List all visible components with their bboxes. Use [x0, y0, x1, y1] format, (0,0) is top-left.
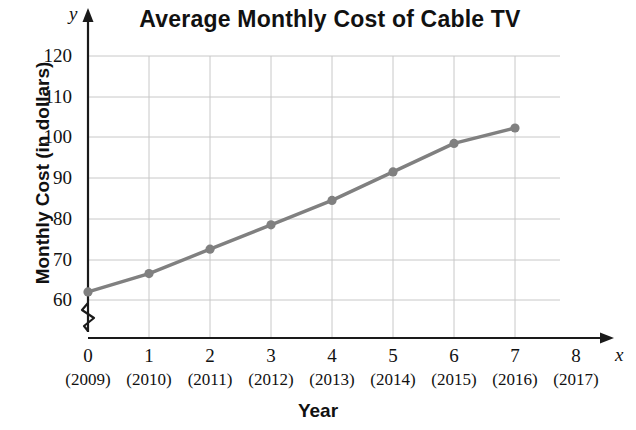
- data-point: [388, 167, 397, 176]
- data-point: [144, 269, 153, 278]
- x-axis-arrow-icon: [600, 333, 614, 344]
- data-point: [83, 287, 92, 296]
- chart-canvas: Average Monthly Cost of Cable TV Monthly…: [0, 0, 636, 430]
- data-point: [449, 139, 458, 148]
- plot-svg: [0, 0, 636, 430]
- horizontal-gridlines: [88, 56, 560, 300]
- data-point: [205, 245, 214, 254]
- data-point: [327, 196, 336, 205]
- data-line-series: [88, 128, 515, 292]
- data-point: [510, 123, 519, 132]
- data-point: [266, 220, 275, 229]
- y-axis-arrow-icon: [83, 8, 94, 22]
